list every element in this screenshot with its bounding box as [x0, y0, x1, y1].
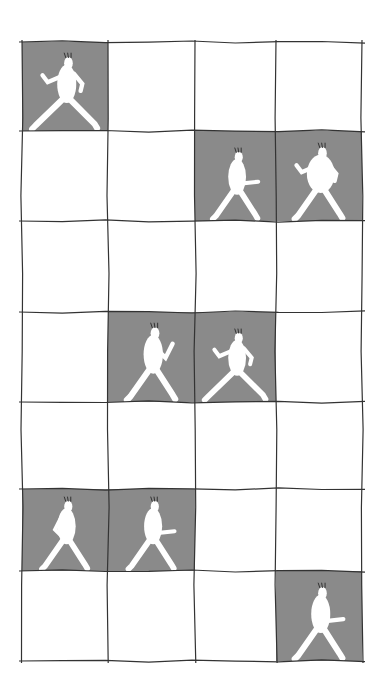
grid-line-horizontal: [19, 220, 365, 222]
shaded-cells: [22, 42, 362, 661]
walking-figures-grid-illustration: [0, 0, 382, 693]
